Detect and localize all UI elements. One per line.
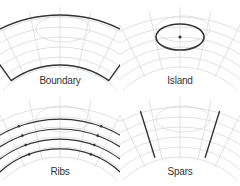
rib-node bbox=[93, 144, 96, 147]
rib-node bbox=[21, 134, 24, 137]
label-island: Island bbox=[120, 75, 240, 86]
label-ribs: Ribs bbox=[0, 166, 120, 177]
panel-ribs: Ribs bbox=[0, 93, 120, 186]
rib-node bbox=[24, 144, 27, 147]
label-spars: Spars bbox=[120, 166, 240, 177]
panel-island: Island bbox=[120, 0, 240, 93]
panel-boundary: Boundary bbox=[0, 0, 120, 93]
rib-node bbox=[90, 153, 93, 156]
rib-node bbox=[96, 134, 99, 137]
label-boundary: Boundary bbox=[0, 75, 120, 86]
rib-node bbox=[18, 125, 21, 128]
panel-spars: Spars bbox=[120, 93, 240, 186]
island-center-dot bbox=[179, 36, 182, 39]
rib-node bbox=[28, 153, 31, 156]
rib-node bbox=[100, 125, 103, 128]
